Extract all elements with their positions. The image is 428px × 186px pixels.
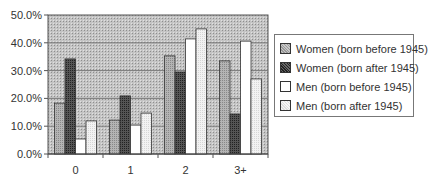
y-tick-label: 10.0% — [11, 120, 42, 132]
bar-1-0 — [65, 59, 76, 154]
x-tick-label: 0 — [72, 164, 78, 176]
bar-2-3 — [241, 41, 252, 154]
legend-item: Women (born after 1945) — [280, 58, 413, 77]
legend-item: Women (born before 1945) — [280, 39, 413, 58]
legend-label: Men (born before 1945) — [296, 81, 412, 93]
legend-item: Men (born before 1945) — [280, 77, 413, 96]
x-tick-label: 1 — [127, 164, 133, 176]
bar-0-3 — [220, 61, 231, 154]
bar-3-1 — [141, 113, 152, 154]
bar-0-0 — [55, 103, 66, 154]
x-tick-label: 2 — [182, 164, 188, 176]
legend-swatch — [280, 100, 291, 111]
legend: Women (born before 1945)Women (born afte… — [274, 34, 414, 117]
y-tick-label: 30.0% — [11, 65, 42, 77]
bar-2-1 — [131, 125, 142, 154]
legend-label: Women (born after 1945) — [296, 62, 419, 74]
bar-3-3 — [251, 79, 262, 154]
bar-chart: 0.0%10.0%20.0%30.0%40.0%50.0%0123+ — [0, 0, 300, 186]
y-tick-label: 20.0% — [11, 92, 42, 104]
legend-swatch — [280, 62, 291, 73]
bar-0-1 — [110, 120, 121, 154]
bar-3-0 — [86, 121, 97, 154]
bar-0-2 — [165, 56, 176, 154]
legend-swatch — [280, 81, 291, 92]
bar-1-3 — [230, 114, 241, 154]
bar-3-2 — [196, 29, 207, 154]
y-tick-label: 40.0% — [11, 37, 42, 49]
bar-1-2 — [175, 72, 186, 154]
legend-label: Men (born after 1945) — [296, 100, 402, 112]
bar-1-1 — [120, 96, 131, 154]
x-tick-label: 3+ — [234, 164, 247, 176]
y-tick-label: 50.0% — [11, 9, 42, 21]
bar-2-2 — [186, 39, 197, 154]
legend-label: Women (born before 1945) — [296, 43, 428, 55]
y-tick-label: 0.0% — [17, 148, 42, 160]
bar-2-0 — [76, 139, 87, 154]
legend-swatch — [280, 43, 291, 54]
legend-item: Men (born after 1945) — [280, 96, 413, 115]
